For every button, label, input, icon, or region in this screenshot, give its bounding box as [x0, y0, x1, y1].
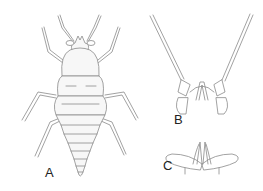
metathorax	[54, 96, 106, 115]
b-antenna-left	[150, 15, 184, 80]
antenna-right	[87, 15, 101, 42]
panel-b-detail	[150, 14, 253, 114]
abdomen	[56, 115, 105, 176]
eye-left	[66, 41, 74, 46]
leg-hind-right	[101, 118, 126, 155]
panel-label-c: C	[163, 159, 172, 172]
eye-right	[87, 41, 95, 46]
leg-hind-left	[35, 118, 60, 157]
mesothorax	[58, 76, 104, 96]
panel-label-b: B	[174, 113, 183, 126]
leg-mid-left	[22, 92, 56, 121]
leg-mid-right	[105, 92, 138, 120]
b-palp-right	[216, 98, 228, 114]
c-stylets	[193, 142, 211, 164]
panel-c-detail	[166, 142, 239, 174]
figure-canvas	[0, 0, 263, 191]
leg-front-left	[42, 27, 63, 63]
panel-label-a: A	[45, 166, 54, 179]
antenna-left	[58, 15, 74, 42]
leg-front-right	[98, 27, 120, 63]
b-antenna-right	[222, 14, 253, 81]
pronotum	[62, 48, 99, 76]
b-mouthparts	[190, 82, 214, 100]
panel-a-insect	[22, 15, 138, 176]
